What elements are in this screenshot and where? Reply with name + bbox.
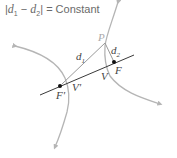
vertex-v-prime-label: V' [72, 81, 82, 93]
focus-f-label: F [114, 64, 122, 76]
focus-f-prime-dot [58, 84, 62, 88]
point-p-label: P [97, 31, 105, 43]
focus-f-prime-label: F' [55, 89, 66, 101]
hyperbola-diagram: P d1 d2 F V F' V' [0, 0, 177, 158]
d1-label: d1 [76, 50, 85, 65]
d2-label: d2 [111, 44, 121, 59]
